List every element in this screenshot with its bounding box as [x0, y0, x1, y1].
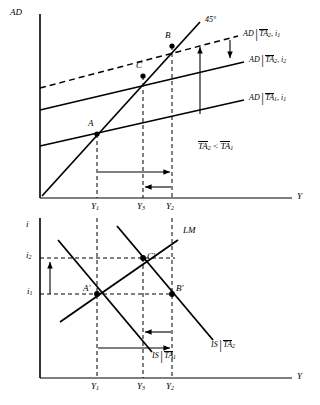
bottom-chart-point-a-prime-label: A': [83, 284, 90, 293]
top-chart-point-b-label: B: [165, 31, 171, 40]
curve-rate-sub: 1: [277, 32, 280, 38]
curve-cond-var: TA: [265, 56, 274, 64]
bottom-chart-curve-is-ta1: [58, 240, 152, 352]
inequality-right-var: TA: [220, 142, 230, 151]
bottom-chart-point-b-prime-label: B': [176, 284, 183, 293]
bottom-chart-label-lm: LM: [183, 226, 196, 235]
curve-base-text: IS: [152, 351, 159, 360]
xtick-sub: 3: [142, 205, 145, 211]
top-chart-point-a-label: A: [88, 119, 94, 128]
bottom-chart-xtick-y1: Y1: [91, 382, 99, 391]
bottom-chart-xtick-y3: Y3: [137, 382, 145, 391]
bottom-chart-xtick-y2: Y2: [166, 382, 174, 391]
xtick-sub: 1: [96, 205, 99, 211]
curve-cond-var: TA: [265, 94, 274, 102]
bottom-chart-label-is-ta1: IS|TA1: [152, 349, 176, 362]
bottom-chart-ytick-i1: i1: [27, 287, 33, 296]
curve-rate-sub: 2: [283, 58, 286, 64]
top-chart-xtick-y2: Y2: [166, 202, 174, 211]
top-chart-xtick-y3: Y3: [137, 202, 145, 211]
curve-cond-sub: 1: [173, 354, 176, 360]
top-chart-curve-ad-ta1-i1: [40, 100, 244, 146]
curve-rate-sub: 1: [283, 96, 286, 102]
curve-base-text: IS: [211, 340, 218, 349]
curve-cond-var: TA: [259, 30, 268, 38]
bottom-chart-ytick-i2: i2: [26, 251, 32, 260]
top-chart-label-ad-ta1-i1: AD|TA1, i1: [249, 91, 286, 104]
curve-cond-var: TA: [223, 341, 232, 349]
top-chart-label-ad-ta2-i2: AD|TA2, i2: [249, 53, 286, 66]
curve-base-text: AD: [249, 93, 260, 102]
curve-base-text: AD: [243, 29, 254, 38]
top-chart-label-ad-ta2-i1: AD|TA2, i1: [243, 27, 280, 40]
top-chart-axes: [40, 14, 292, 198]
top-chart-x-axis-label: Y: [297, 192, 302, 201]
xtick-sub: 3: [142, 385, 145, 391]
top-chart-inequality-annotation: TA2 < TA1: [198, 142, 233, 151]
curve-cond-sub: 2: [232, 343, 235, 349]
economics-figure: AD Y 45° A C B AD|TA2, i1 AD|TA2, i2 AD|…: [0, 0, 320, 405]
bottom-chart-label-is-ta2: IS|TA2: [211, 338, 235, 351]
xtick-sub: 2: [171, 205, 174, 211]
bottom-chart-y-axis-label: i: [26, 220, 29, 229]
bottom-chart-x-axis-label: Y: [297, 372, 302, 381]
top-chart-points: [94, 43, 174, 136]
xtick-sub: 1: [96, 385, 99, 391]
bottom-chart-curve-lm: [60, 240, 178, 322]
top-chart-point-c-label: C: [136, 61, 142, 70]
ytick-sub: 2: [29, 254, 32, 260]
inequality-right-sub: 1: [230, 145, 233, 151]
top-chart-y-axis-label: AD: [10, 8, 22, 17]
bottom-chart-point-c-prime-label: C': [147, 252, 155, 261]
ytick-sub: 1: [30, 290, 33, 296]
bottom-chart-curve-is-ta2: [117, 226, 213, 340]
top-chart-45-degree-label: 45°: [205, 16, 216, 24]
top-chart-45-line: [42, 22, 200, 196]
curve-base-text: AD: [249, 55, 260, 64]
curve-cond-var: TA: [164, 352, 173, 360]
xtick-sub: 2: [171, 385, 174, 391]
top-chart-xtick-y1: Y1: [91, 202, 99, 211]
inequality-left-var: TA: [198, 142, 208, 151]
